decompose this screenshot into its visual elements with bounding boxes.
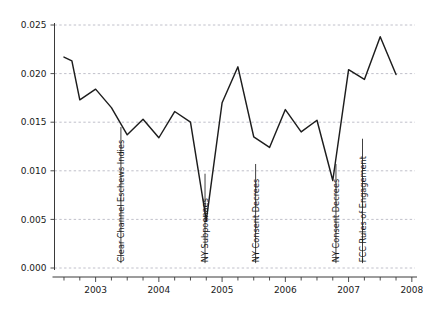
y-tick-label-0.010: 0.010 (21, 166, 47, 176)
annotation-label-0: Clear Channel Eschews Indies (116, 140, 126, 262)
y-axis-group (51, 23, 55, 270)
y-tick-label-0.005: 0.005 (21, 215, 47, 225)
y-tick-label-0.015: 0.015 (21, 117, 47, 127)
x-tick-label-2005: 2005 (211, 285, 234, 295)
annotation-label-3: NY Consent Decrees (331, 179, 341, 262)
x-tick-label-2003: 2003 (84, 285, 107, 295)
annotation-label-1: NY Subpoenaes (200, 198, 210, 262)
annotation-label-2: NY Consent Decrees (251, 179, 261, 262)
x-tick-label-2006: 2006 (274, 285, 297, 295)
x-axis-group (53, 277, 418, 282)
x-tick-label-2008: 2008 (400, 285, 423, 295)
y-tick-label-0.020: 0.020 (21, 69, 47, 79)
annotation-label-4: FCC Rules of Engagement (358, 155, 368, 262)
chart-container: 0.0000.0050.0100.0150.0200.025 200320042… (0, 0, 423, 311)
x-tick-label-2004: 2004 (147, 285, 170, 295)
y-tick-labels-group: 0.0000.0050.0100.0150.0200.025 (21, 20, 47, 273)
x-tick-labels-group: 200320042005200620072008 (84, 285, 423, 295)
x-tick-label-2007: 2007 (337, 285, 360, 295)
y-tick-label-0.025: 0.025 (21, 20, 47, 30)
data-series-group (64, 37, 396, 221)
y-tick-label-0.000: 0.000 (21, 263, 47, 273)
data-line-series-1 (64, 37, 396, 221)
annotations-group: Clear Channel Eschews IndiesNY Subpoenae… (116, 127, 368, 263)
line-chart: 0.0000.0050.0100.0150.0200.025 200320042… (0, 0, 423, 311)
